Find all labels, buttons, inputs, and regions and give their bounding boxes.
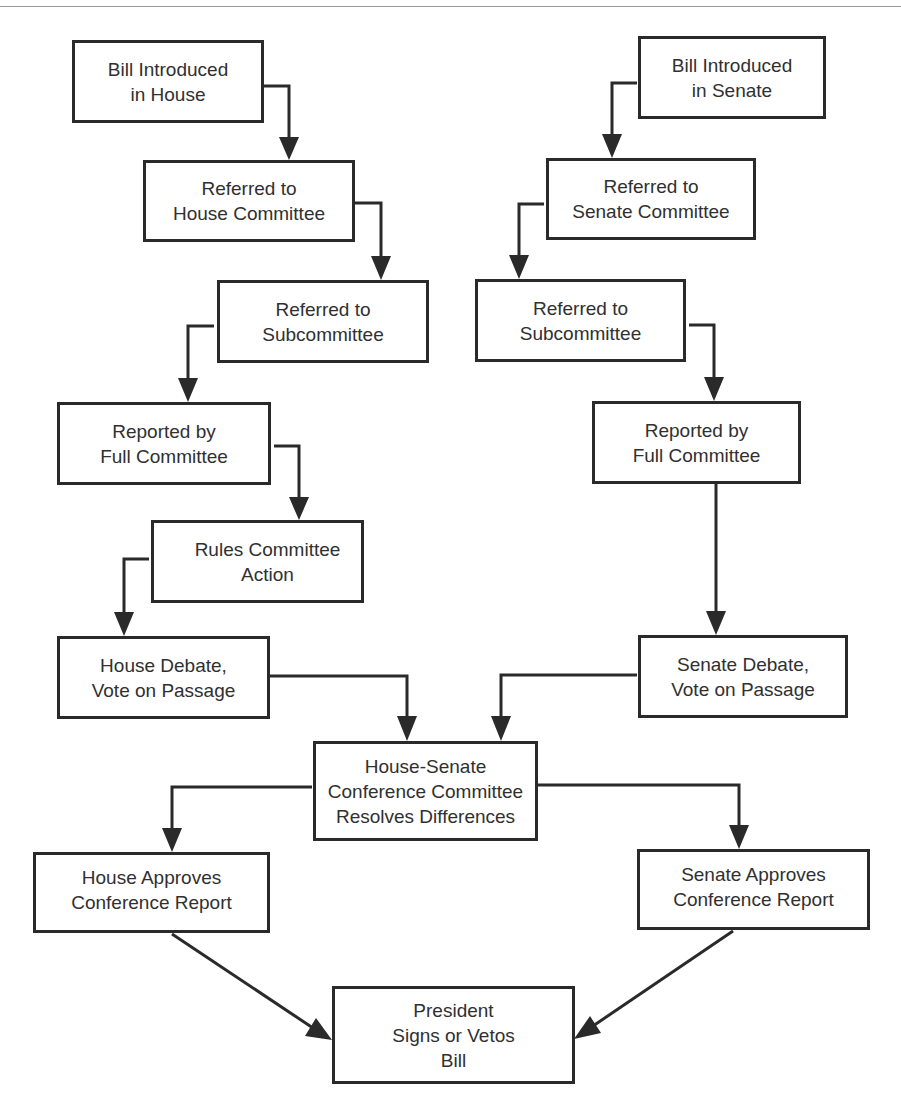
arrowhead-icon (162, 828, 182, 852)
node-label: Reported by Full Committee (633, 418, 761, 468)
node-senate-referred-to-subcommittee: Referred to Subcommittee (475, 279, 686, 362)
node-conference-committee: House-Senate Conference Committee Resolv… (313, 741, 538, 841)
arrowhead-icon (397, 716, 417, 741)
node-bill-introduced-in-senate: Bill Introduced in Senate (638, 36, 826, 119)
arrowhead-icon (706, 611, 726, 635)
edge-house-full-to-rules (274, 446, 299, 500)
connector-layer (0, 0, 901, 1116)
arrowhead-icon (178, 378, 198, 402)
node-house-reported-by-full-committee: Reported by Full Committee (57, 402, 271, 485)
node-senate-approves-report: Senate Approves Conference Report (637, 849, 870, 930)
node-label: Rules Committee Action (195, 537, 341, 587)
node-house-referred-to-subcommittee: Referred to Subcommittee (217, 280, 429, 363)
node-label: House Debate, Vote on Passage (92, 653, 236, 703)
arrowhead-icon (305, 1018, 332, 1040)
node-senate-reported-by-full-committee: Reported by Full Committee (592, 401, 801, 484)
node-rules-committee-action: Rules Committee Action (151, 520, 364, 603)
edge-senate-intro-to-committee (612, 83, 637, 138)
arrowhead-icon (289, 497, 309, 520)
node-house-debate-vote: House Debate, Vote on Passage (57, 636, 270, 719)
edge-house-debate-to-conference (270, 676, 407, 720)
node-label: Reported by Full Committee (100, 419, 228, 469)
arrowhead-icon (574, 1016, 601, 1039)
edge-house-intro-to-committee (264, 86, 289, 140)
arrowhead-icon (704, 377, 724, 401)
node-label: Senate Debate, Vote on Passage (671, 652, 815, 702)
node-house-approves-report: House Approves Conference Report (33, 852, 270, 933)
edge-house-rules-to-debate (124, 559, 149, 616)
arrowhead-icon (509, 255, 529, 279)
arrowhead-icon (602, 134, 622, 158)
node-label: Bill Introduced in House (108, 57, 228, 107)
edge-house-subcomm-to-full (188, 326, 214, 382)
arrowhead-icon (279, 137, 299, 160)
edge-house-approves-to-president (172, 934, 316, 1030)
arrowhead-icon (491, 716, 511, 741)
node-bill-introduced-in-house: Bill Introduced in House (72, 40, 264, 123)
node-referred-to-senate-committee: Referred to Senate Committee (546, 158, 756, 240)
node-label: Bill Introduced in Senate (672, 53, 792, 103)
arrowhead-icon (114, 612, 134, 636)
node-label: President Signs or Vetos Bill (392, 998, 515, 1073)
edge-senate-approves-to-president (590, 931, 733, 1028)
edge-senate-debate-to-conference (501, 675, 637, 720)
node-label: House-Senate Conference Committee Resolv… (328, 754, 523, 829)
node-senate-debate-vote: Senate Debate, Vote on Passage (638, 635, 848, 718)
node-label: Referred to House Committee (173, 176, 325, 226)
edge-conference-to-house-approves (172, 787, 312, 832)
edge-senate-subcomm-to-full (689, 325, 714, 382)
node-label: Senate Approves Conference Report (673, 862, 834, 912)
node-president-signs-or-vetos: President Signs or Vetos Bill (332, 986, 575, 1084)
node-label: Referred to Subcommittee (520, 296, 641, 346)
edge-conference-to-senate-approves (538, 785, 739, 830)
arrowhead-icon (729, 825, 749, 849)
edge-house-committee-to-subcomm (355, 203, 381, 260)
node-label: Referred to Senate Committee (572, 174, 729, 224)
node-label: Referred to Subcommittee (262, 297, 383, 347)
edge-senate-committee-to-subcomm (519, 204, 544, 260)
node-label: House Approves Conference Report (71, 865, 232, 915)
arrowhead-icon (371, 256, 391, 280)
node-referred-to-house-committee: Referred to House Committee (143, 160, 355, 242)
